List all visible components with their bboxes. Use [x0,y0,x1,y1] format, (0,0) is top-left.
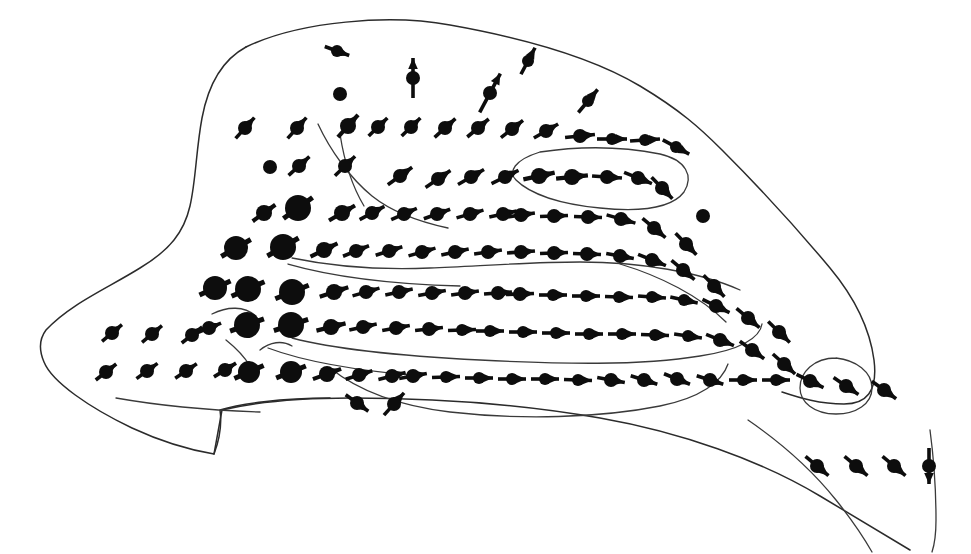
station-marker [770,374,782,386]
station-marker [582,95,594,107]
station-marker [334,205,350,221]
station-marker [349,244,363,258]
station-marker [678,294,690,306]
station-marker [203,276,227,300]
station-marker [517,326,529,338]
station-marker [471,121,485,135]
station-marker [387,397,401,411]
station-marker [877,383,891,397]
station-marker [438,121,452,135]
station-marker [777,357,791,371]
station-marker [696,209,710,223]
station-marker [496,207,510,221]
station-marker [350,396,364,410]
station-marker [600,170,614,184]
station-marker [365,206,379,220]
station-marker [422,322,436,336]
station-marker [713,333,727,347]
station-marker [404,120,418,134]
station-marker [614,212,628,226]
station-marker [645,253,659,267]
station-marker [505,122,519,136]
station-marker [389,321,403,335]
station-marker [185,328,199,342]
station-marker [385,369,399,383]
station-marker [481,245,495,259]
station-marker [547,209,561,223]
station-marker [340,118,356,134]
station-marker [440,371,452,383]
station-marker [333,87,347,101]
station-marker [224,236,248,260]
station-marker [323,319,339,335]
station-marker [415,245,429,259]
station-marker [352,368,366,382]
station-marker [604,373,618,387]
station-marker [670,372,684,386]
station-marker [581,210,595,224]
station-marker [430,207,444,221]
station-marker [573,129,587,143]
station-marker [531,168,547,184]
station-marker [270,234,296,260]
station-marker [498,170,512,184]
station-marker [514,245,528,259]
station-marker [316,242,332,258]
station-marker [431,172,445,186]
station-marker [140,364,154,378]
station-marker [280,361,302,383]
station-marker [238,361,260,383]
station-marker [256,205,272,221]
station-marker [506,373,518,385]
station-marker [513,287,527,301]
station-marker [703,373,717,387]
station-marker [218,363,232,377]
station-marker [803,374,817,388]
figure-canvas [0,0,971,554]
station-marker [547,289,559,301]
station-marker [285,195,311,221]
station-marker [290,121,304,135]
station-marker [922,459,936,473]
station-marker [234,312,260,338]
station-marker [613,291,625,303]
station-marker [539,373,551,385]
station-marker [463,207,477,221]
station-marker [397,207,411,221]
station-marker [707,279,721,293]
station-marker [676,263,690,277]
station-marker [580,247,594,261]
station-marker [473,372,485,384]
station-marker [319,366,335,382]
station-marker [105,326,119,340]
station-marker [263,160,277,174]
station-marker [647,221,661,235]
station-marker [887,459,901,473]
station-marker [359,285,373,299]
station-marker [338,159,352,173]
station-marker [392,285,406,299]
station-marker [406,369,420,383]
station-marker [356,320,370,334]
station-marker [613,249,627,263]
station-marker [202,321,216,335]
station-marker [484,325,496,337]
station-marker [564,169,580,185]
station-marker [514,208,528,222]
station-marker [709,299,723,313]
station-marker [670,141,682,153]
station-marker [737,374,749,386]
station-marker [456,324,468,336]
station-marker [238,121,252,135]
station-marker [810,459,824,473]
station-marker [522,55,534,67]
vector-field-figure [0,0,971,554]
station-marker [406,71,420,85]
station-marker [655,181,669,195]
station-marker [583,328,595,340]
station-marker [179,364,193,378]
station-marker [646,291,658,303]
station-marker [382,244,396,258]
station-marker [616,328,628,340]
station-marker [679,237,693,251]
